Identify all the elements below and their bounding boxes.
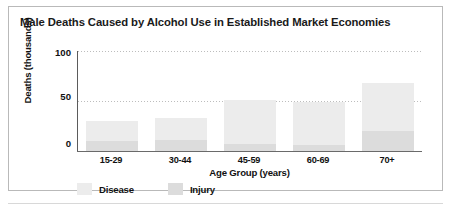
- x-tick-label-1: 30-44: [145, 155, 215, 165]
- plot-area: 15-29 30-44 45-59 60-69 70+: [77, 51, 422, 151]
- legend-label-injury: Injury: [190, 184, 215, 195]
- bar-segment-injury: [224, 144, 276, 151]
- bar-segment-injury: [86, 141, 138, 151]
- bar-group: [293, 51, 345, 151]
- bar-segment-disease: [86, 121, 138, 141]
- y-tick-label-0: 0: [41, 139, 71, 149]
- legend-item-disease: Disease: [77, 183, 134, 195]
- y-tick-label-100: 100: [41, 48, 71, 58]
- bar-segment-disease: [293, 102, 345, 145]
- bar-group: [224, 51, 276, 151]
- x-axis-title: Age Group (years): [77, 167, 422, 178]
- bar-segment-disease: [155, 118, 207, 140]
- chart-figure: Male Deaths Caused by Alcohol Use in Est…: [8, 6, 443, 191]
- chart-title: Male Deaths Caused by Alcohol Use in Est…: [20, 16, 390, 28]
- bar-group: [155, 51, 207, 151]
- bar-group: [86, 51, 138, 151]
- chart-legend: Disease Injury: [77, 183, 422, 195]
- bar-segment-injury: [293, 145, 345, 151]
- bar-segment-injury: [155, 140, 207, 151]
- x-tick-label-3: 60-69: [283, 155, 353, 165]
- bar-series-container: [77, 51, 422, 151]
- y-axis-tick-labels: 100 50 0: [41, 7, 71, 192]
- legend-label-disease: Disease: [99, 184, 134, 195]
- x-tick-label-2: 45-59: [214, 155, 284, 165]
- bar-segment-disease: [362, 83, 414, 131]
- legend-item-injury: Injury: [168, 183, 215, 195]
- page-rule: [8, 203, 443, 204]
- y-tick-label-50: 50: [41, 92, 71, 102]
- bar-segment-disease: [224, 100, 276, 144]
- y-axis-title: Deaths (thousands): [22, 13, 33, 109]
- legend-swatch-injury: [168, 183, 183, 195]
- x-tick-label-4: 70+: [352, 155, 422, 165]
- bar-segment-injury: [362, 131, 414, 151]
- bar-group: [362, 51, 414, 151]
- legend-swatch-disease: [77, 183, 92, 195]
- x-tick-label-0: 15-29: [76, 155, 146, 165]
